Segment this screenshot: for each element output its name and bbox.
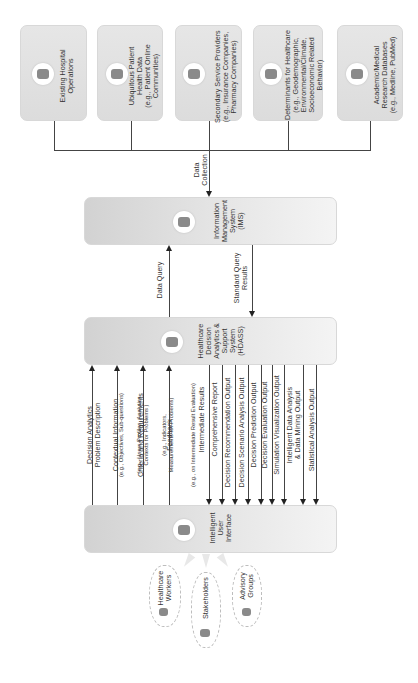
data-collection-line [209, 150, 210, 192]
output-label-3: Decision Scenario Analysis Output [238, 370, 246, 495]
ray-healthcare [181, 553, 196, 569]
connector-secondary [209, 121, 210, 151]
collection-bus [54, 150, 371, 151]
data-query-arrow [166, 245, 172, 251]
source-label-patient: Ubiquitous Patient Health Data (e.g., Pa… [128, 31, 160, 121]
cloud-advisory-groups: Advisory Groups [232, 565, 262, 627]
source-label-academic: Academic/Medical Research Databases (e.g… [373, 32, 397, 118]
globe-person-icon [260, 63, 282, 85]
output-label-8: Statistical Analysis Output [308, 380, 316, 480]
data-collection-label: Data Collection [193, 150, 209, 190]
input-title-feedback: Feedback [166, 375, 174, 495]
input-title-criteria: Criteria and Requirements [137, 375, 145, 495]
ray-advisory [217, 553, 232, 569]
input-arrow-problem [89, 365, 95, 371]
hdass-box: Healthcare Decision Analytics & Support … [84, 317, 337, 365]
books-icon [346, 63, 368, 85]
input-detail-feedback: (e.g., on Intermediate Result Evaluation… [190, 375, 197, 495]
stakeholders-icon [197, 625, 213, 641]
source-box-secondary: Secondary Service Providers (e.g., Insur… [175, 25, 242, 121]
cloud-healthcare-workers: Healthcare Workers [149, 565, 181, 627]
patient-data-icon [106, 63, 128, 85]
hdass-label: Healthcare Decision Analytics & Support … [197, 318, 245, 364]
ims-label: Information Management System (IMS) [213, 198, 245, 244]
cloud-label-healthcare: Healthcare Workers [157, 568, 173, 608]
input-title-contextual: Contextual Information [112, 375, 120, 495]
output-label-7: Intelligent Data Analysis & Data Mining … [286, 370, 302, 480]
output-label-5: Decision Evaluation Output [261, 370, 269, 480]
cloud-stakeholders: Stakeholders [191, 572, 221, 648]
source-box-determinants: Determinants for Healthcare (e.g., Geode… [253, 25, 323, 121]
source-label-secondary: Secondary Service Providers (e.g., Insur… [214, 31, 238, 123]
connector-determinants [288, 121, 289, 151]
source-box-patient: Ubiquitous Patient Health Data (e.g., Pa… [97, 25, 163, 121]
advisory-group-icon [238, 604, 254, 620]
analytics-icon [161, 331, 183, 353]
ui-box: Intelligent User Interface [84, 505, 337, 553]
ray-stakeholders [202, 554, 210, 568]
output-line-7 [303, 365, 304, 499]
input-arrow-contextual [114, 365, 120, 371]
source-label-determinants: Determinants for Healthcare (e.g., Geode… [284, 27, 324, 123]
input-arrow-feedback [166, 365, 172, 371]
output-line-8 [316, 365, 317, 499]
output-label-1: Comprehensive Report [211, 372, 219, 467]
standard-query-line [252, 245, 253, 311]
output-label-4: Decision Prediction Output [250, 370, 258, 480]
input-arrow-criteria [140, 365, 146, 371]
database-server-icon [173, 211, 195, 233]
connector-patient [131, 121, 132, 151]
output-line-2 [235, 365, 236, 499]
source-label-hospital: Existing Hospital Operations [59, 36, 75, 116]
data-query-line [169, 251, 170, 317]
output-label-0: Intermediate Results [198, 372, 206, 467]
source-box-academic: Academic/Medical Research Databases (e.g… [337, 25, 403, 121]
service-provider-icon [183, 63, 205, 85]
cloud-label-advisory: Advisory Groups [239, 566, 255, 606]
source-box-hospital: Existing Hospital Operations [20, 25, 87, 121]
standard-query-label: Standard Query Results [233, 248, 249, 308]
connector-hospital [54, 121, 55, 151]
users-group-icon [173, 519, 195, 541]
cloud-label-stakeholders: Stakeholders [202, 573, 210, 623]
data-query-label: Data Query [156, 260, 164, 300]
output-label-6: Simulation Visualization Output [273, 370, 281, 480]
ui-label: Intelligent User Interface [209, 508, 233, 548]
connector-academic [370, 121, 371, 151]
output-label-2: Decision Recommendation Output [224, 370, 232, 495]
building-icon [32, 63, 54, 85]
ims-box: Information Management System (IMS) [84, 197, 337, 245]
